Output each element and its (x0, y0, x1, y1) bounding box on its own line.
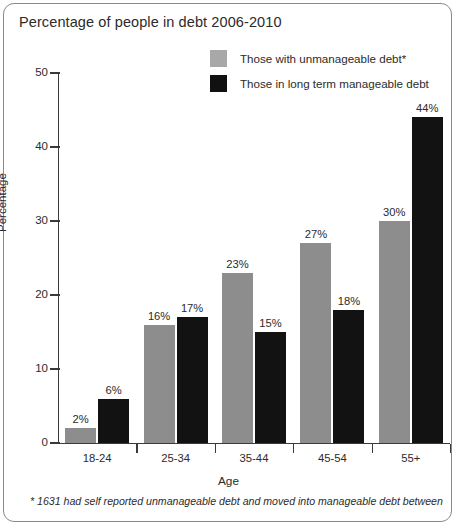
bar-value-label: 27% (294, 228, 337, 240)
y-tick-mark (50, 294, 60, 295)
bar-35-44-series-2 (255, 332, 286, 443)
y-tick-label: 20 (14, 289, 48, 301)
chart-title: Percentage of people in debt 2006-2010 (19, 14, 282, 30)
y-tick-mark (50, 442, 60, 443)
bar-value-label: 44% (406, 102, 449, 114)
y-axis-title: Percentage (0, 173, 8, 232)
bar-18-24-series-2 (98, 399, 129, 443)
chart-legend: Those with unmanageable debt* Those in l… (210, 46, 429, 96)
bar-value-label: 18% (327, 295, 370, 307)
y-axis-line (58, 72, 59, 444)
y-tick-mark (50, 146, 60, 147)
bar-value-label: 17% (171, 302, 214, 314)
bar-value-label: 15% (249, 317, 292, 329)
bar-55+-series-2 (412, 117, 443, 443)
bar-18-24-series-1 (65, 428, 96, 443)
y-tick-label: 40 (14, 141, 48, 153)
y-tick-mark (50, 72, 60, 73)
legend-item-unmanageable: Those with unmanageable debt* (210, 46, 429, 71)
bar-45-54-series-2 (333, 310, 364, 443)
y-tick-label: 50 (14, 67, 48, 79)
legend-swatch-black-icon (210, 75, 227, 92)
bar-25-34-series-2 (177, 317, 208, 443)
bar-value-label: 6% (92, 384, 135, 396)
bar-value-label: 23% (216, 258, 259, 270)
bar-35-44-series-1 (222, 273, 253, 443)
y-tick-label: 30 (14, 215, 48, 227)
y-tick-mark (50, 368, 60, 369)
bar-55+-series-1 (379, 221, 410, 443)
bar-25-34-series-1 (144, 325, 175, 443)
x-category-label-55+: 55+ (372, 452, 450, 464)
legend-label-manageable: Those in long term manageable debt (240, 77, 429, 90)
x-category-label-18-24: 18-24 (58, 452, 136, 464)
y-tick-label: 0 (14, 437, 48, 449)
bar-value-label: 30% (373, 206, 416, 218)
x-category-label-25-34: 25-34 (136, 452, 214, 464)
x-axis-line (58, 443, 450, 444)
x-category-label-45-54: 45-54 (293, 452, 371, 464)
x-category-label-35-44: 35-44 (215, 452, 293, 464)
legend-swatch-gray-icon (210, 50, 227, 67)
legend-label-unmanageable: Those with unmanageable debt* (240, 52, 406, 65)
y-tick-label: 10 (14, 363, 48, 375)
y-tick-mark (50, 220, 60, 221)
x-axis-separator-tick (450, 444, 451, 453)
legend-item-manageable: Those in long term manageable debt (210, 71, 429, 96)
chart-footnote: * 1631 had self reported unmanageable de… (30, 495, 443, 507)
x-axis-title: Age (0, 474, 457, 488)
bar-value-label: 2% (59, 413, 102, 425)
bar-45-54-series-1 (300, 243, 331, 443)
